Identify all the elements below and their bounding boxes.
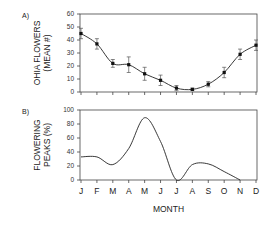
x-tick-label-month: O: [221, 186, 228, 196]
panel-b-plot-frame: [80, 110, 257, 180]
x-tick-label-month: D: [253, 186, 259, 196]
panel-b-y-axis-title: PEAKS (%): [42, 123, 52, 167]
panel-a-data-point: [223, 71, 226, 74]
x-axis-title: MONTH: [153, 204, 184, 214]
panel-b-label: B): [22, 108, 29, 116]
panel-a-y-axis-title: OHIA FLOWERS: [32, 20, 42, 85]
panel-a-data-point: [191, 88, 194, 91]
panel-a-y-tick-label: 30: [67, 49, 75, 56]
panel-a-data-point: [254, 44, 257, 47]
panel-a-data-point: [143, 72, 146, 75]
panel-b-y-tick-label: 20: [67, 162, 75, 169]
panel-b-y-axis-title: FLOWERING: [32, 119, 42, 170]
x-tick-label-month: J: [79, 186, 83, 196]
panel-b-y-tick-label: 80: [67, 120, 75, 127]
panel-a-data-point: [175, 87, 178, 90]
x-tick-label-month: F: [94, 186, 99, 196]
panel-a-data-point: [95, 42, 98, 45]
x-tick-label-month: A: [190, 186, 196, 196]
panel-b-y-tick-label: 100: [63, 106, 74, 113]
panel-a-data-point: [207, 83, 210, 86]
x-tick-label-month: J: [174, 186, 178, 196]
panel-b-y-tick-label: 0: [70, 176, 74, 183]
panel-a-y-tick-label: 20: [67, 62, 75, 69]
panel-a-data-point: [159, 79, 162, 82]
panel-a-y-tick-label: 60: [67, 10, 75, 17]
panel-a-plot-frame: [80, 14, 257, 92]
panel-a-y-axis-title: (MEAN #): [42, 34, 52, 71]
x-tick-label-month: A: [126, 186, 132, 196]
panel-a-data-point: [79, 32, 82, 35]
x-tick-label-month: S: [205, 186, 211, 196]
panel-a-data-point: [238, 53, 241, 56]
x-tick-label-month: N: [237, 186, 243, 196]
panel-a-y-tick-label: 50: [67, 23, 75, 30]
panel-a-data-point: [127, 63, 130, 66]
x-tick-label-month: M: [141, 186, 148, 196]
panel-b-series-line: [81, 118, 240, 181]
panel-b-y-tick-label: 60: [67, 134, 75, 141]
x-tick-label-month: M: [109, 186, 116, 196]
panel-b-y-tick-label: 40: [67, 148, 75, 155]
panel-a-y-tick-label: 10: [67, 75, 75, 82]
panel-a-y-tick-label: 40: [67, 36, 75, 43]
panel-a-label: A): [22, 12, 29, 20]
panel-a-series-line: [81, 34, 256, 90]
panel-a-y-tick-label: 0: [70, 88, 74, 95]
panel-a-data-point: [111, 62, 114, 65]
chart-figure: 0102030405060A)OHIA FLOWERS(MEAN #)02040…: [0, 0, 270, 225]
x-tick-label-month: J: [158, 186, 162, 196]
